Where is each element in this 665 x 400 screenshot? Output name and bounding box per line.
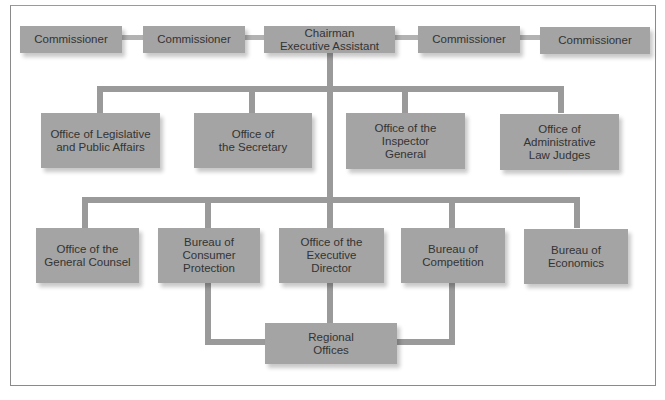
bureau-consumer-protection-box: Bureau of Consumer Protection [158,228,260,283]
connector-commissioner2-chairman [245,35,264,40]
connector-drop-general-counsel [82,197,88,228]
connector-drop-legislative [97,86,103,113]
bureau-competition-box: Bureau of Competition [401,228,505,283]
connector-drop-economics [574,197,580,228]
connector-drop-consumer-protection [205,197,211,228]
connector-competition-to-regional-vertical [449,283,455,345]
connector-commissioner3-commissioner4 [520,35,540,40]
commissioner-box-2: Commissioner [143,26,245,53]
connector-commissioner1-commissioner2 [122,35,143,40]
connector-director-to-regional [327,283,333,323]
commissioner-box-1: Commissioner [20,26,122,53]
commissioner-box-4: Commissioner [540,27,650,54]
office-executive-director-box: Office of the Executive Director [279,228,384,283]
connector-drop-secretary [249,86,255,113]
office-inspector-general-box: Office of the Inspector General [346,113,465,169]
connector-level3-bus [82,197,580,203]
commissioner-box-3: Commissioner [418,26,520,53]
connector-consumer-to-regional-horizontal [205,339,265,345]
regional-offices-box: Regional Offices [265,323,397,364]
office-secretary-box: Office of the Secretary [194,113,312,168]
office-legislative-public-affairs-box: Office of Legislative and Public Affairs [41,113,160,168]
connector-chairman-commissioner3 [395,35,418,40]
office-admin-law-judges-box: Office of Administrative Law Judges [500,114,619,170]
office-general-counsel-box: Office of the General Counsel [36,228,139,283]
connector-consumer-to-regional-vertical [205,283,211,345]
connector-drop-competition [449,197,455,228]
bureau-economics-box: Bureau of Economics [524,229,628,284]
connector-level2-bus-right [402,86,564,92]
connector-competition-to-regional-horizontal [396,339,455,345]
chairman-box: Chairman Executive Assistant [264,26,395,53]
